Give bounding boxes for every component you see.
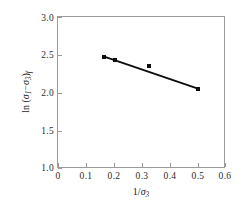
x-tick-label-0.5: 0.5 xyxy=(192,171,205,181)
x-tick-label-0.6: 0.6 xyxy=(219,171,232,181)
x-tick-label-0.3: 0.3 xyxy=(136,171,149,181)
y-tick-label-3.0: 3.0 xyxy=(41,13,54,23)
chart-figure: 3.0 2.5 2.0 1.5 1.0 0 0.1 0.2 0.3 0.4 0.… xyxy=(0,0,246,208)
y-tick-label-1.0: 1.0 xyxy=(41,163,54,173)
y-axis-title-text: ln (σ1−σ3)f xyxy=(20,71,31,113)
x-tick-label-0: 0 xyxy=(55,171,60,181)
x-axis-title-text: 1/σ3 xyxy=(133,186,149,197)
plot-area: 3.0 2.5 2.0 1.5 1.0 0 0.1 0.2 0.3 0.4 0.… xyxy=(57,16,225,168)
fit-line xyxy=(58,17,226,169)
x-axis-title: 1/σ3 xyxy=(133,186,149,199)
y-tick-label-2.0: 2.0 xyxy=(41,88,54,98)
data-series-layer xyxy=(58,17,224,167)
y-tick-label-1.5: 1.5 xyxy=(41,126,54,136)
data-point xyxy=(102,55,106,59)
data-point xyxy=(113,58,117,62)
data-point xyxy=(147,64,151,68)
y-axis-title: ln (σ1−σ3)f xyxy=(20,71,33,113)
y-tick-label-2.5: 2.5 xyxy=(41,50,54,60)
x-tick-label-0.4: 0.4 xyxy=(164,171,177,181)
x-tick-label-0.2: 0.2 xyxy=(108,171,121,181)
data-point xyxy=(196,87,200,91)
x-tick-label-0.1: 0.1 xyxy=(80,171,93,181)
